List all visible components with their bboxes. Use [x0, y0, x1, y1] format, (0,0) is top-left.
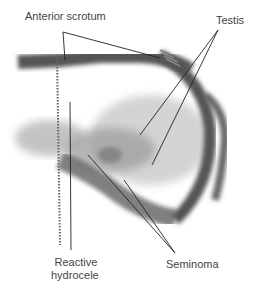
label-reactive-hydrocele: Reactive hydrocele: [51, 256, 99, 282]
ultrasound-image: [0, 0, 279, 286]
label-reactive-line2: hydrocele: [51, 269, 99, 282]
ultrasound-figure: Anterior scrotum Testis Reactive hydroce…: [0, 0, 279, 286]
label-testis: Testis: [216, 14, 244, 27]
label-anterior-scrotum: Anterior scrotum: [25, 10, 106, 23]
label-reactive-line1: Reactive: [51, 256, 99, 269]
label-seminoma: Seminoma: [166, 258, 219, 271]
